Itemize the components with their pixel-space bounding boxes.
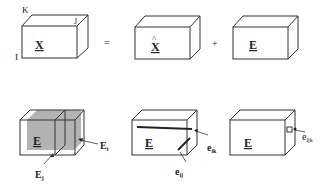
fiber-ij [178,138,190,150]
equals-sign: = [104,37,110,48]
axis-j-label: J [74,17,77,26]
box-e [233,16,298,59]
element-ijk-label: eijk [302,131,313,143]
fiber-ik [137,127,192,129]
box-fibers-label: E [145,136,153,150]
slice-j-label: Ej [35,169,44,181]
slice-i-pointer [80,140,98,144]
box-x-label: X [35,38,44,52]
box-slices [20,110,84,155]
box-slices-label: E [33,134,41,148]
box-fibers [132,110,197,155]
diagram-canvas: K J I X = ^ X + E E Ei Ej [0,0,331,189]
box-element-label: E [244,136,252,150]
box-xhat-label: X [151,40,160,54]
slice-i-label: Ei [100,140,109,152]
axis-i-label: I [15,52,18,62]
box-e-label: E [249,38,257,52]
axis-k-label: K [22,5,29,15]
fiber-ij-pointer [180,152,186,162]
fiber-ik-label: eik [207,142,217,154]
fiber-ik-pointer [196,131,208,135]
box-element [230,110,295,155]
box-x [22,15,88,58]
plus-sign: + [212,38,218,49]
fiber-ij-label: eij [175,166,183,178]
box-xhat [135,16,200,59]
